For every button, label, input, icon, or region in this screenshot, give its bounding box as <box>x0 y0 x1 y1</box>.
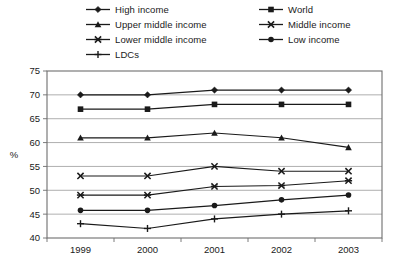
x-axis-tick-label: 1999 <box>70 244 91 255</box>
x-axis-tick-label: 2003 <box>338 244 359 255</box>
legend-item-low-income: Low income <box>258 34 340 45</box>
chart-container: High incomeWorldUpper middle incomeMiddl… <box>0 0 396 269</box>
series-world <box>78 102 352 112</box>
series-middle-income <box>77 163 351 179</box>
legend-label: World <box>288 4 313 15</box>
y-axis-tick-label: 50 <box>29 185 40 196</box>
x-axis-tick-label: 2000 <box>137 244 158 255</box>
plus-marker-icon <box>85 49 111 60</box>
series-ldcs <box>77 207 352 232</box>
legend-item-middle-income: Middle income <box>258 19 351 30</box>
legend-label: Lower middle income <box>115 34 207 45</box>
series-lower-middle-income <box>77 178 352 199</box>
chart-svg: 404550556065707519992000200120022003% <box>0 60 396 269</box>
x-marker-icon <box>258 19 284 30</box>
y-axis-tick-label: 55 <box>29 161 40 172</box>
legend-item-upper-middle-income: Upper middle income <box>85 19 207 30</box>
diamond-marker-icon <box>85 4 111 15</box>
y-axis-tick-label: 65 <box>29 113 40 124</box>
legend-item-lower-middle-income: Lower middle income <box>85 34 207 45</box>
legend-label: High income <box>115 4 169 15</box>
y-axis-tick-label: 40 <box>29 232 40 243</box>
y-axis-tick-label: 75 <box>29 65 40 76</box>
triangle-marker-icon <box>85 19 111 30</box>
x-axis-tick-label: 2002 <box>271 244 292 255</box>
series-upper-middle-income <box>77 130 352 150</box>
y-axis-tick-label: 70 <box>29 89 40 100</box>
y-axis-tick-label: 45 <box>29 209 40 220</box>
star-marker-icon <box>85 34 111 45</box>
circle-marker-icon <box>258 34 284 45</box>
chart-plot-area: 404550556065707519992000200120022003% <box>0 60 396 269</box>
legend-label: Low income <box>288 34 340 45</box>
y-axis-tick-label: 60 <box>29 137 40 148</box>
legend-label: Upper middle income <box>115 19 207 30</box>
legend-item-high-income: High income <box>85 4 169 15</box>
square-marker-icon <box>258 4 284 15</box>
chart-legend: High incomeWorldUpper middle incomeMiddl… <box>0 4 396 66</box>
legend-label: LDCs <box>115 49 139 60</box>
legend-label: Middle income <box>288 19 351 30</box>
series-high-income <box>77 87 351 98</box>
x-axis-tick-label: 2001 <box>204 244 225 255</box>
legend-item-world: World <box>258 4 313 15</box>
y-axis-title: % <box>10 149 19 160</box>
legend-item-ldcs: LDCs <box>85 49 139 60</box>
